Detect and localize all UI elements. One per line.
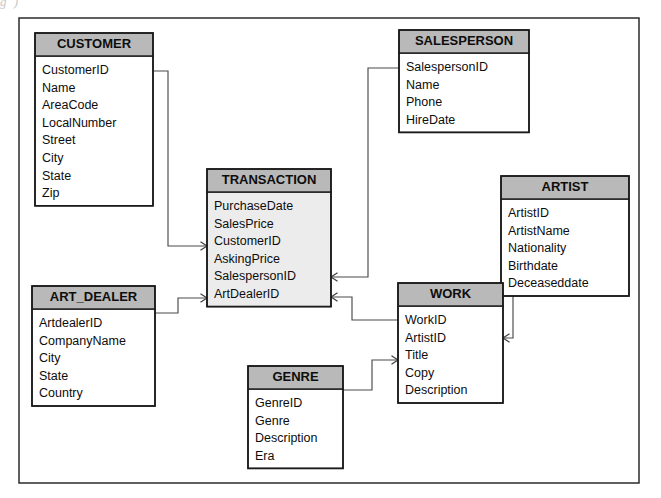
entity-attribute: Birthdate xyxy=(508,259,558,273)
entity-attribute: HireDate xyxy=(406,113,455,127)
relationship-line xyxy=(343,360,398,390)
entity-attribute: State xyxy=(39,369,68,383)
entity-attribute: Description xyxy=(255,431,318,445)
entity-attribute: State xyxy=(42,169,71,183)
relationship-line xyxy=(331,68,399,277)
entity-attribute: ArtistID xyxy=(405,331,446,345)
relationship-line xyxy=(155,298,207,313)
entity-name-label: SALESPERSON xyxy=(415,33,513,48)
entity-attribute: Title xyxy=(405,348,428,362)
entity-attribute: WorkID xyxy=(405,313,446,327)
entity-attribute: Nationality xyxy=(508,241,567,255)
entity-attribute: Zip xyxy=(42,186,59,200)
entity-work[interactable]: WORKWorkIDArtistIDTitleCopyDescription xyxy=(398,283,503,403)
relationship-customer-transaction xyxy=(153,71,207,250)
entity-attribute: Phone xyxy=(406,95,442,109)
entity-attribute: Copy xyxy=(405,366,435,380)
entity-attribute: City xyxy=(39,351,61,365)
entity-attribute: Description xyxy=(405,383,468,397)
entity-name-label: ARTIST xyxy=(542,179,589,194)
entity-attribute: Name xyxy=(406,78,439,92)
entity-attribute: PurchaseDate xyxy=(214,199,293,213)
entity-name-label: WORK xyxy=(430,286,472,301)
entity-name-label: TRANSACTION xyxy=(222,172,317,187)
er-diagram-canvas: CUSTOMERCustomerIDNameAreaCodeLocalNumbe… xyxy=(0,0,661,498)
relationship-salesperson-transaction xyxy=(331,68,399,281)
entity-attribute: CompanyName xyxy=(39,334,126,348)
entity-transaction[interactable]: TRANSACTIONPurchaseDateSalesPriceCustome… xyxy=(207,169,331,307)
entity-attribute: Genre xyxy=(255,414,290,428)
entity-attribute: Name xyxy=(42,81,75,95)
entity-attribute: ArtistName xyxy=(508,224,570,238)
entity-attribute: ArtDealerID xyxy=(214,287,279,301)
entity-customer[interactable]: CUSTOMERCustomerIDNameAreaCodeLocalNumbe… xyxy=(35,33,153,206)
entity-attribute: SalespersonID xyxy=(406,60,488,74)
entity-attribute: ArtistID xyxy=(508,206,549,220)
relationship-line xyxy=(331,297,398,320)
entities-layer: CUSTOMERCustomerIDNameAreaCodeLocalNumbe… xyxy=(32,30,629,468)
entity-attribute: Deceaseddate xyxy=(508,276,589,290)
entity-attribute-panel xyxy=(35,56,153,206)
entity-attribute: City xyxy=(42,151,64,165)
entity-attribute: Street xyxy=(42,133,76,147)
entity-attribute: AreaCode xyxy=(42,98,98,112)
relationship-artdealer-transaction xyxy=(155,294,207,313)
entity-attribute: SalespersonID xyxy=(214,269,296,283)
entity-attribute: CustomerID xyxy=(214,234,281,248)
entity-attribute: SalesPrice xyxy=(214,217,274,231)
entity-name-label: ART_DEALER xyxy=(50,289,138,304)
entity-attribute: GenreID xyxy=(255,396,302,410)
entity-attribute: LocalNumber xyxy=(42,116,116,130)
entity-attribute: ArtdealerID xyxy=(39,316,102,330)
entity-salesperson[interactable]: SALESPERSONSalespersonIDNamePhoneHireDat… xyxy=(399,30,529,132)
entity-art_dealer[interactable]: ART_DEALERArtdealerIDCompanyNameCityStat… xyxy=(32,286,155,406)
entity-name-label: CUSTOMER xyxy=(57,36,132,51)
entity-name-label: GENRE xyxy=(272,369,319,384)
relationship-line xyxy=(153,71,207,246)
entity-attribute: CustomerID xyxy=(42,63,109,77)
entity-artist[interactable]: ARTISTArtistIDArtistNameNationalityBirth… xyxy=(501,176,629,296)
entity-attribute: Country xyxy=(39,386,84,400)
entity-attribute: AskingPrice xyxy=(214,252,280,266)
entity-attribute: Era xyxy=(255,449,275,463)
entity-genre[interactable]: GENREGenreIDGenreDescriptionEra xyxy=(248,366,343,468)
relationship-transaction-work xyxy=(331,293,398,320)
relationship-genre-work xyxy=(343,356,398,390)
er-diagram-root: g ) CUSTOMERCustomerIDNameAreaCodeLocalN… xyxy=(0,0,661,498)
